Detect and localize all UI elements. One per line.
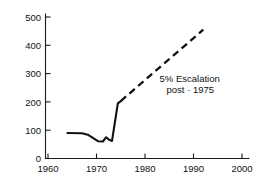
x-axis-ticks: [48, 154, 242, 159]
series-line-historical: [67, 101, 120, 141]
x-tick-label-2000: 2000: [231, 163, 252, 174]
annotation-escalation-line2: post · 1975: [167, 84, 215, 95]
line-chart: 0100200300400500 19601970198019902000 5%…: [0, 0, 256, 190]
y-tick-label-100: 100: [25, 125, 41, 136]
x-tick-label-1970: 1970: [86, 163, 107, 174]
y-tick-label-300: 300: [25, 68, 41, 79]
x-tick-label-1980: 1980: [134, 163, 155, 174]
axes: [46, 14, 250, 159]
y-axis-tick-labels: 0100200300400500: [25, 12, 41, 165]
x-tick-label-1960: 1960: [37, 163, 58, 174]
y-axis-ticks: [46, 17, 51, 159]
annotation-escalation-line1: 5% Escalation: [160, 73, 220, 84]
y-tick-label-500: 500: [25, 12, 41, 23]
y-tick-label-400: 400: [25, 40, 41, 51]
x-axis-tick-labels: 19601970198019902000: [37, 163, 252, 174]
y-tick-label-200: 200: [25, 97, 41, 108]
x-tick-label-1990: 1990: [183, 163, 204, 174]
chart-container: 0100200300400500 19601970198019902000 5%…: [0, 0, 256, 190]
